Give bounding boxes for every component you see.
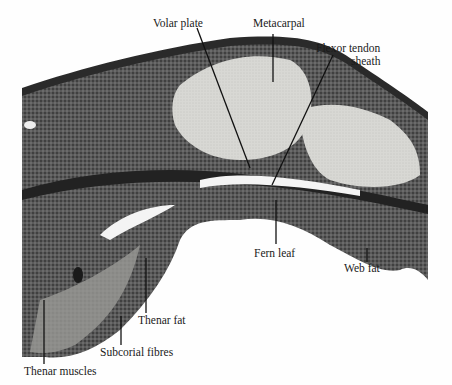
label-flexor-tendon-sheath-line2: sheath [351, 55, 380, 68]
label-volar-plate: Volar plate [153, 17, 203, 30]
label-web-fat: Web fat [344, 262, 380, 275]
tissue-section-image [0, 0, 452, 385]
label-subcorial-fibres: Subcorial fibres [100, 346, 173, 359]
label-fern-leaf: Fern leaf [254, 247, 295, 260]
label-thenar-muscles: Thenar muscles [24, 365, 97, 378]
histology-figure: Volar plate Metacarpal Flexor tendon she… [0, 0, 452, 385]
label-thenar-fat: Thenar fat [138, 314, 186, 327]
label-metacarpal: Metacarpal [253, 17, 305, 30]
label-flexor-tendon-sheath-line1: Flexor tendon [316, 42, 380, 55]
